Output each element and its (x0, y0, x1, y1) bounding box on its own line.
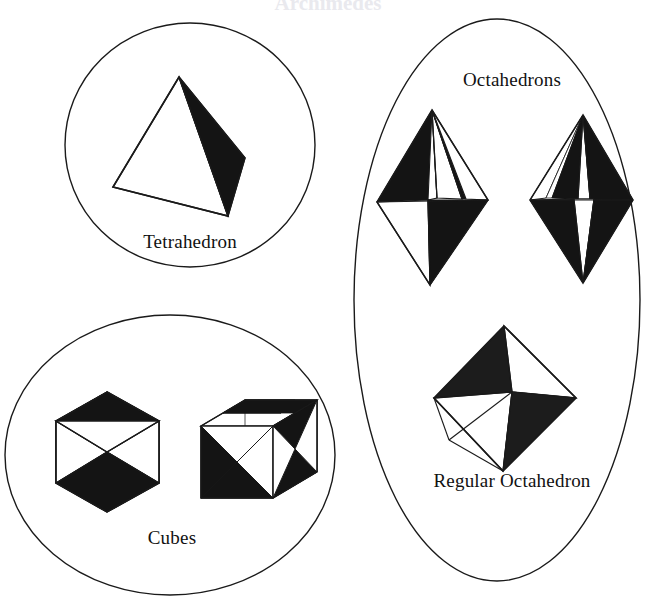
label-regular-octahedron: Regular Octahedron (433, 470, 590, 492)
octahedron-left-solid (377, 110, 488, 285)
tetrahedron-solid (113, 77, 245, 216)
regular-octahedron-solid (434, 326, 576, 471)
cube-left-solid (56, 392, 159, 512)
octahedrons-group-ellipse (354, 19, 640, 581)
label-tetrahedron: Tetrahedron (143, 231, 237, 253)
label-octahedrons: Octahedrons (463, 69, 561, 91)
polyhedra-figure: Archimedes (0, 0, 657, 599)
label-cubes: Cubes (148, 527, 197, 549)
cube-right-solid (201, 400, 317, 498)
octahedron-right-solid (530, 115, 633, 283)
